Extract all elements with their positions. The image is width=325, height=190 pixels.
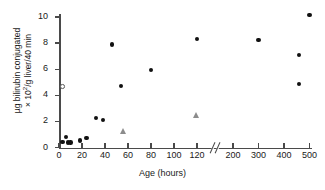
y-tick-6 <box>55 69 60 70</box>
x-tick-400 <box>283 143 284 148</box>
x-tick-500 <box>309 143 310 148</box>
x-tick-60 <box>127 143 128 148</box>
x-tick-0 <box>58 143 59 148</box>
x-tick-40 <box>104 143 105 148</box>
data-point-filled-circle <box>119 84 123 88</box>
y-tick-label-0: 0 <box>8 142 48 152</box>
x-axis-label: Age (hours) <box>0 168 325 178</box>
data-point-triangle <box>120 128 126 134</box>
data-point-filled-circle <box>297 82 301 86</box>
y-tick-label-2: 2 <box>8 115 48 125</box>
x-tick-100 <box>173 143 174 148</box>
x-tick-300 <box>258 143 259 148</box>
y-tick-8 <box>55 42 60 43</box>
data-point-filled-circle <box>297 53 301 57</box>
y-tick-2 <box>55 121 60 122</box>
scatter-chart-figure: µg bilirubin conjugated × 102/g liver/40… <box>0 0 325 190</box>
data-point-filled-circle <box>195 37 199 41</box>
y-tick-label-6: 6 <box>8 63 48 73</box>
data-point-filled-circle <box>307 13 311 17</box>
data-point-filled-circle <box>84 136 88 140</box>
x-tick-20 <box>81 143 82 148</box>
x-tick-80 <box>150 143 151 148</box>
x-axis-line <box>59 148 312 150</box>
x-tick-200 <box>232 143 233 148</box>
data-point-filled-circle <box>110 42 114 46</box>
x-tick-label-120: 120 <box>182 150 212 160</box>
data-point-filled-circle <box>68 140 72 144</box>
data-point-filled-circle <box>94 116 98 120</box>
y-axis-label-area: µg bilirubin conjugated × 102/g liver/40… <box>0 0 34 155</box>
data-point-filled-circle <box>149 68 153 72</box>
x-tick-120 <box>196 143 197 148</box>
y-tick-10 <box>55 16 60 17</box>
y-tick-label-4: 4 <box>8 89 48 99</box>
data-point-filled-circle <box>78 138 82 142</box>
data-point-open-circle <box>60 84 65 89</box>
data-point-filled-circle <box>256 38 260 42</box>
y-tick-4 <box>55 95 60 96</box>
data-point-filled-circle <box>60 140 64 144</box>
data-point-triangle <box>193 112 199 118</box>
y-tick-label-8: 8 <box>8 37 48 47</box>
y-tick-label-10: 10 <box>8 11 48 21</box>
x-tick-label-500: 500 <box>295 150 325 160</box>
y-axis-line <box>59 14 61 149</box>
data-point-filled-circle <box>101 118 105 122</box>
data-point-filled-circle <box>64 135 68 139</box>
